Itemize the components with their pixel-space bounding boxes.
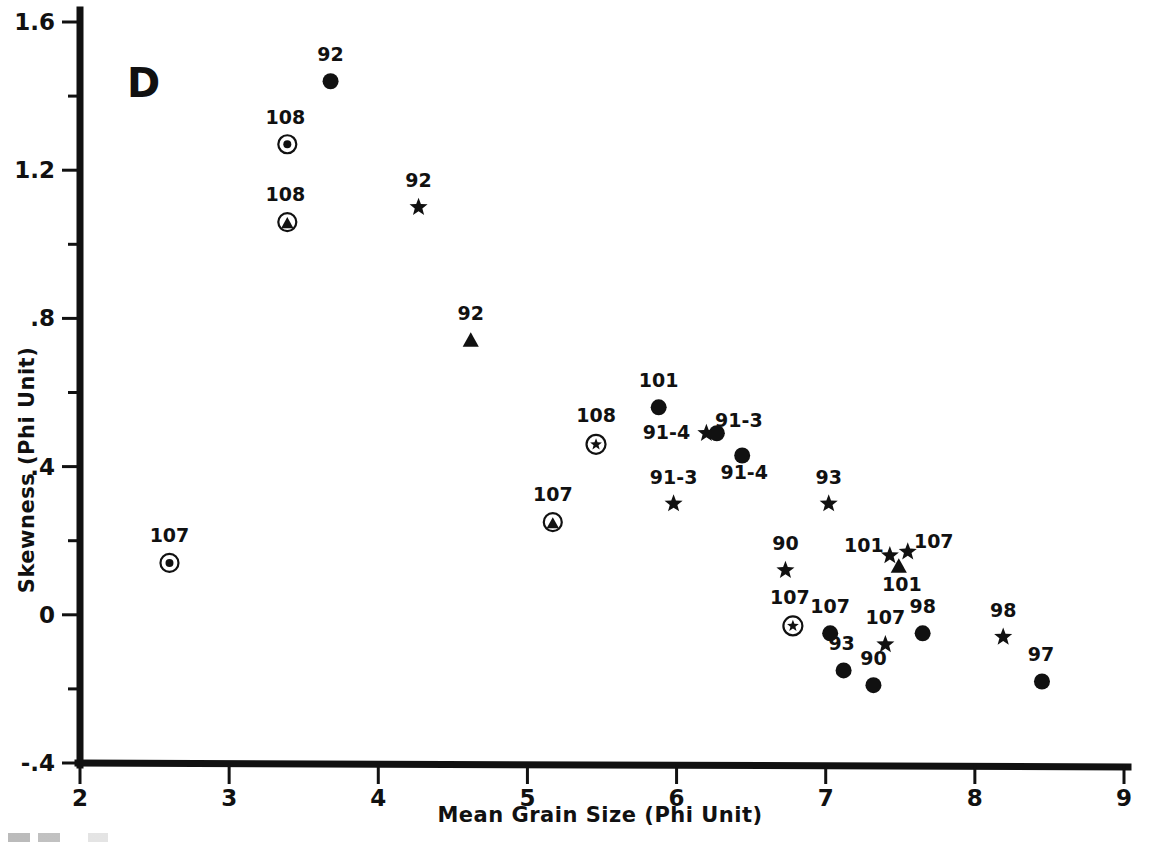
data-point: 93 <box>815 466 841 512</box>
data-point: 93 <box>828 632 854 678</box>
marker-circle <box>323 73 339 89</box>
x-axis-title: Mean Grain Size (Phi Unit) <box>437 803 762 827</box>
marker-circle <box>1034 673 1050 689</box>
y-tick-label: -.4 <box>21 750 55 776</box>
marker-circle <box>651 399 667 415</box>
data-points-layer: 92108108929210110891-491-391-491-3107931… <box>150 43 1055 693</box>
data-point: 91-4 <box>643 421 716 443</box>
marker-circle-star <box>587 435 606 454</box>
data-point-label: 93 <box>828 632 854 654</box>
data-point-label: 107 <box>866 606 906 628</box>
data-point: 92 <box>317 43 343 89</box>
data-point-label: 92 <box>458 302 484 324</box>
data-point-label: 91-3 <box>715 409 763 431</box>
plot-canvas: 1.61.2.8.40-.4 23456789 Skewness (Phi Un… <box>0 0 1156 849</box>
marker-circle-dot <box>278 135 296 153</box>
data-point-label: 92 <box>317 43 343 65</box>
scatter-plot-figure: 1.61.2.8.40-.4 23456789 Skewness (Phi Un… <box>0 0 1156 849</box>
y-tick-label: .8 <box>30 305 55 331</box>
scan-artifact <box>8 833 128 842</box>
data-point-label: 108 <box>265 183 305 205</box>
data-point-label: 90 <box>860 647 886 669</box>
marker-star <box>776 561 794 578</box>
data-point-label: 108 <box>576 404 616 426</box>
data-point-label: 93 <box>815 466 841 488</box>
panel-label: D <box>127 60 160 106</box>
data-point: 98 <box>909 595 935 641</box>
data-point-label: 92 <box>405 169 431 191</box>
data-point: 97 <box>1028 643 1054 689</box>
x-axis-line <box>78 763 1128 767</box>
data-point: 92 <box>458 302 484 347</box>
marker-circle-dot <box>160 554 178 572</box>
data-point-label: 107 <box>914 530 954 552</box>
marker-circle-triangle <box>544 513 562 531</box>
data-point: 101 <box>844 534 899 564</box>
y-axis-title: Skewness (Phi Unit) <box>15 347 39 593</box>
marker-circle-star <box>783 616 802 635</box>
data-point: 98 <box>990 599 1016 645</box>
data-point: 107 <box>770 586 810 636</box>
data-point-label: 107 <box>810 595 850 617</box>
data-point-label: 97 <box>1028 643 1054 665</box>
data-point: 91-3 <box>650 466 698 512</box>
data-point-label: 101 <box>882 573 922 595</box>
data-point-label: 91-4 <box>643 421 691 443</box>
marker-circle-triangle <box>278 213 296 231</box>
data-point-label: 98 <box>909 595 935 617</box>
data-point: 108 <box>576 404 616 454</box>
marker-star <box>665 494 683 511</box>
data-point: 107 <box>150 524 190 572</box>
marker-star <box>820 494 838 511</box>
x-tick-label: 8 <box>967 785 983 811</box>
x-tick-label: 3 <box>221 785 237 811</box>
data-point: 107 <box>866 606 906 652</box>
data-point-label: 90 <box>772 532 798 554</box>
y-tick-label: 1.6 <box>14 9 55 35</box>
marker-star <box>994 628 1012 645</box>
x-tick-label: 9 <box>1116 785 1132 811</box>
marker-circle <box>915 625 931 641</box>
x-tick-label: 7 <box>818 785 834 811</box>
data-point-label: 107 <box>533 483 573 505</box>
data-point-label: 107 <box>150 524 190 546</box>
data-point: 90 <box>860 647 886 693</box>
data-point: 90 <box>772 532 798 578</box>
data-point: 91-4 <box>720 447 768 483</box>
y-tick-label: 0 <box>39 602 55 628</box>
x-tick-label: 4 <box>370 785 386 811</box>
data-point: 107 <box>899 530 954 560</box>
data-point: 101 <box>639 369 679 415</box>
data-point-label: 108 <box>265 106 305 128</box>
y-tick-label: 1.2 <box>14 157 55 183</box>
data-point-label: 101 <box>844 534 884 556</box>
data-point-label: 101 <box>639 369 679 391</box>
marker-triangle <box>463 332 479 347</box>
marker-circle <box>865 677 881 693</box>
data-point: 101 <box>882 558 922 595</box>
data-point: 91-3 <box>709 409 763 441</box>
data-point-label: 91-4 <box>720 461 768 483</box>
data-point: 92 <box>405 169 431 215</box>
data-point-label: 98 <box>990 599 1016 621</box>
marker-circle <box>836 662 852 678</box>
x-tick-label: 2 <box>72 785 88 811</box>
data-point-label: 107 <box>770 586 810 608</box>
data-point: 108 <box>265 106 305 153</box>
data-point: 108 <box>265 183 305 231</box>
marker-star <box>410 198 428 215</box>
data-point: 107 <box>533 483 573 531</box>
data-point-label: 91-3 <box>650 466 698 488</box>
